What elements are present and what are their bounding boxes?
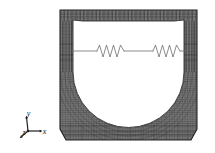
mesh-top-beam: [58, 9, 199, 22]
fea-mesh-diagram: y x z: [0, 0, 215, 153]
y-axis-label: y: [26, 109, 31, 118]
u-cavity: [73, 20, 184, 128]
x-axis-label: x: [42, 127, 47, 136]
figure-root: y x z: [0, 0, 215, 153]
axis-origin-node: [27, 130, 30, 133]
